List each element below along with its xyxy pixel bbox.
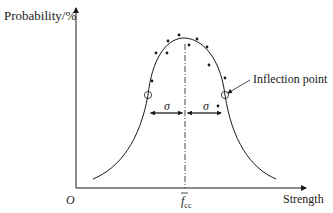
- inflection-point-label: Inflection point: [253, 72, 327, 87]
- mean-subscript: cc: [184, 201, 191, 210]
- sigma-left-label: σ: [164, 99, 170, 114]
- origin-label: O: [66, 193, 75, 208]
- x-axis-label: Strength: [283, 192, 324, 207]
- data-points: [151, 34, 227, 108]
- mean-label: fcc: [181, 194, 191, 210]
- annotation-leader: [228, 80, 250, 93]
- distribution-curve: [93, 38, 276, 179]
- sigma-right-label: σ: [203, 99, 209, 114]
- y-axis-label: Probability/%: [4, 8, 76, 24]
